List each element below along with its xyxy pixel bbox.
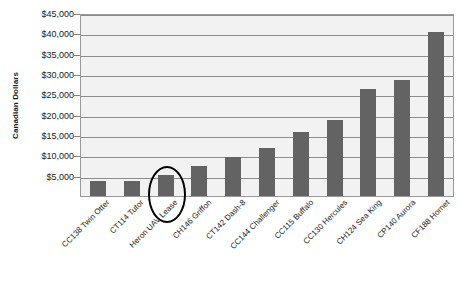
bar bbox=[428, 32, 444, 196]
bar bbox=[225, 157, 241, 196]
bar bbox=[327, 120, 343, 196]
y-axis-tick-label: $25,000 bbox=[41, 90, 74, 100]
bar bbox=[158, 175, 174, 196]
bar bbox=[259, 148, 275, 196]
bar bbox=[394, 80, 410, 196]
x-axis-tick-label: CC138 Twin Otter bbox=[60, 198, 111, 249]
y-axis-tick-label: $10,000 bbox=[41, 151, 74, 161]
y-axis-title: Canadian Dollars bbox=[6, 30, 24, 180]
y-axis-tick-label: $45,000 bbox=[41, 9, 74, 19]
bar bbox=[124, 181, 140, 196]
y-axis-tick-label: $15,000 bbox=[41, 131, 74, 141]
bar bbox=[90, 181, 106, 196]
bar bbox=[293, 132, 309, 196]
y-axis-tick-mark bbox=[74, 156, 80, 157]
y-axis-tick-labels: $5,000$10,000$15,000$20,000$25,000$30,00… bbox=[24, 14, 78, 197]
y-axis-tick-mark bbox=[74, 136, 80, 137]
y-axis-tick-label: $40,000 bbox=[41, 29, 74, 39]
y-axis-tick-label: $30,000 bbox=[41, 70, 74, 80]
bar bbox=[360, 89, 376, 196]
y-axis-tick-mark bbox=[74, 177, 80, 178]
y-axis-tick-mark bbox=[74, 14, 80, 15]
y-axis-tick-mark bbox=[74, 75, 80, 76]
y-axis-title-text: Canadian Dollars bbox=[11, 72, 20, 139]
y-axis-tick-label: $20,000 bbox=[41, 111, 74, 121]
y-axis-tick-mark bbox=[74, 95, 80, 96]
y-axis-tick-label: $5,000 bbox=[46, 172, 74, 182]
y-axis-tick-mark bbox=[74, 55, 80, 56]
y-axis-tick-mark bbox=[74, 116, 80, 117]
bar bbox=[191, 166, 207, 197]
y-axis-tick-label: $35,000 bbox=[41, 50, 74, 60]
bar-chart: Canadian Dollars $5,000$10,000$15,000$20… bbox=[0, 0, 462, 285]
y-axis-tick-mark bbox=[74, 34, 80, 35]
plot-area bbox=[80, 14, 454, 197]
x-axis-tick-labels: CC138 Twin OtterCT114 TutorHeron UAV Lea… bbox=[80, 198, 454, 285]
bars-container bbox=[81, 15, 453, 196]
